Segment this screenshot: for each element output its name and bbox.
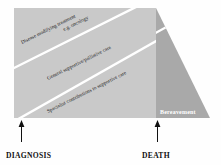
death-arrow-icon [155,120,161,142]
diagnosis-arrow-icon [19,120,25,142]
bereavement-region [156,8,210,118]
bereavement-label: Bereavement [160,109,196,115]
axis-label-diagnosis: DIAGNOSIS [6,151,51,160]
figure-container: Disease modifying treatment e.g. oncolog… [0,0,221,165]
main-care-region [14,8,156,118]
palliative-care-diagram: Disease modifying treatment e.g. oncolog… [0,0,221,165]
axis-label-death: DEATH [142,151,170,160]
